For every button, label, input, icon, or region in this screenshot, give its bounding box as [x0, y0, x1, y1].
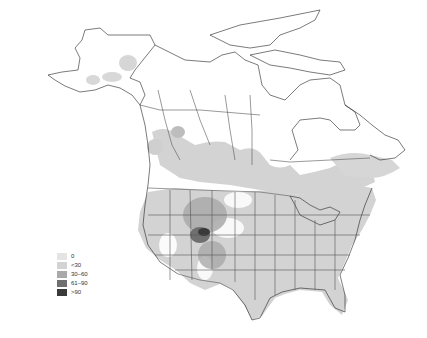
legend-swatch: [57, 289, 67, 296]
legend-swatch: [57, 271, 67, 278]
legend-item: 61–90: [57, 279, 88, 288]
legend-item: 30–60: [57, 270, 88, 279]
legend-swatch: [57, 262, 67, 269]
legend-item: 0: [57, 252, 88, 261]
legend-item: <30: [57, 261, 88, 270]
legend-label: 0: [71, 252, 74, 261]
legend-label: 61–90: [71, 279, 88, 288]
legend-swatch: [57, 253, 67, 260]
map-legend: 0 <30 30–60 61–90 >90: [57, 252, 88, 297]
legend-label: >90: [71, 288, 81, 297]
density-shading: [86, 55, 400, 320]
legend-swatch: [57, 280, 67, 287]
legend-label: <30: [71, 261, 81, 270]
legend-item: >90: [57, 288, 88, 297]
legend-label: 30–60: [71, 270, 88, 279]
